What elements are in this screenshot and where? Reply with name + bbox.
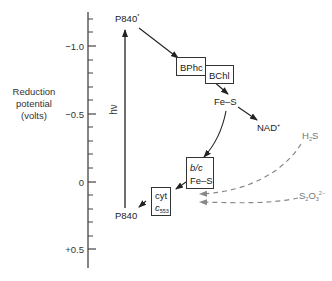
axis-title-line1: Reduction (4, 86, 64, 98)
arrow-fes-to-bc (204, 111, 226, 157)
arrow-fes-to-nad (238, 107, 257, 120)
h2s-s: S (312, 130, 318, 141)
arrow-cyt-to-p840 (139, 201, 146, 207)
arrow-bc-to-cyt (176, 182, 186, 189)
cyt-c553-box: cyt c553 (151, 187, 171, 216)
tick-label-plus-0.5: +0.5 (54, 244, 84, 255)
p840-excited-superscript: * (137, 13, 139, 19)
bchl-box: BChl (205, 65, 234, 84)
voltage-axis (88, 12, 96, 268)
bchl-label: BChl (209, 70, 230, 81)
bphc-box: BPhc (176, 57, 206, 76)
arrow-thiosulfate-to-bc (200, 198, 298, 203)
cyt-label: cyt (155, 190, 170, 202)
p840-label: P840 (115, 211, 137, 221)
arrow-h2s-to-bc (200, 144, 301, 194)
tick-label-minus-0.5: −0.5 (54, 109, 84, 120)
thiosulfate-charge: 2− (319, 190, 325, 196)
c553-subscript: 553 (160, 208, 169, 214)
c553-label: c553 (155, 202, 170, 217)
diagram-canvas (0, 0, 332, 281)
bc-fes-label: Fe–S (190, 174, 213, 187)
nad-superscript: + (277, 122, 280, 128)
arrow-p840-to-bphc (139, 28, 178, 58)
h2s-label: H2S (302, 131, 318, 143)
fes-top-label: Fe–S (214, 97, 237, 107)
h2s-h: H (302, 130, 309, 141)
thiosulfate-sub2: 3 (316, 196, 319, 202)
nad-text: NAD (257, 122, 277, 133)
bc-label: b/c (190, 161, 213, 174)
thiosulfate-label: S2O32− (299, 191, 325, 203)
tick-label-minus-1.0: −1.0 (54, 41, 84, 52)
nad-label: NAD+ (257, 123, 280, 133)
p840-excited-text: P840 (115, 13, 137, 24)
bc-fes-box: b/c Fe–S (186, 157, 214, 189)
thiosulfate-o: O (308, 190, 315, 201)
bphc-label: BPhc (180, 62, 203, 73)
tick-label-zero: 0 (54, 177, 84, 188)
p840-excited-label: P840* (115, 14, 139, 24)
photon-label: hν (108, 104, 119, 115)
